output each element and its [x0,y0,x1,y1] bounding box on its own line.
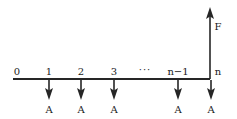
period-label-1: 1 [46,66,52,77]
payment-label-4: A [173,104,182,115]
period-label-n-minus-1: n−1 [167,66,188,77]
period-label-3: 3 [111,66,117,77]
period-label-n: n [215,66,222,77]
payment-label-5: A [206,104,215,115]
payment-arrow-group-4 [174,80,182,100]
payment-arrow-group-1 [45,80,53,100]
payment-arrow-group-3 [110,80,118,100]
future-value-arrow [206,7,214,79]
future-value-label: F [215,21,222,32]
cash-flow-diagram: 0 1 2 3 ··· n−1 n A A A A A F [0,0,237,119]
period-label-ellipsis: ··· [139,64,152,75]
period-label-0: 0 [14,66,20,77]
payment-arrow-group-5 [207,80,215,100]
payment-arrow-group-2 [77,80,85,100]
payment-label-3: A [109,104,118,115]
cash-flow-timeline-svg: 0 1 2 3 ··· n−1 n A A A A A F [0,0,237,119]
period-label-2: 2 [78,66,84,77]
payment-label-2: A [76,104,85,115]
payment-label-1: A [44,104,53,115]
